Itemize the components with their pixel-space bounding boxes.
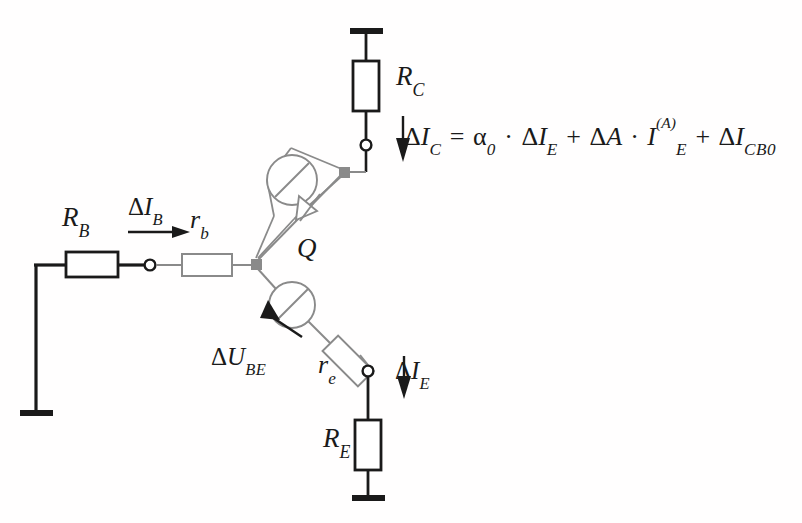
resistor-rb-external <box>66 252 118 277</box>
ground-top-icon <box>350 28 383 34</box>
emitter-wire-upper <box>258 269 276 289</box>
node-base-junction <box>251 259 262 270</box>
ground-bottom-icon <box>352 495 385 501</box>
label-resistor-re-external: RE <box>323 425 351 457</box>
label-delta-ie: ΔIE <box>395 358 430 389</box>
current-source-icon <box>267 155 317 205</box>
terminal-collector-icon <box>361 140 372 151</box>
label-resistor-rc: RC <box>396 63 425 95</box>
label-transistor-q: Q <box>297 235 317 262</box>
label-delta-ube: ΔUBE <box>211 344 266 375</box>
resistor-rc <box>353 61 379 111</box>
label-delta-ib: ΔIB <box>128 194 163 225</box>
label-resistor-rb-external: RB <box>62 204 90 236</box>
resistor-re-external <box>355 420 381 470</box>
terminal-base-icon <box>145 260 156 271</box>
ground-left-icon <box>20 410 53 416</box>
resistor-rb-internal <box>182 254 232 276</box>
collector-current-equation: ΔIC = α0 · ΔIE + ΔA · I(A)E + ΔICB0 <box>404 122 776 154</box>
emitter-wire-mid <box>308 321 330 343</box>
circuit-diagram-page: RB rb ΔIB RC Q ΔUBE re RE ΔIE ΔIC = α0 ·… <box>0 0 802 523</box>
label-resistor-rb-internal: rb <box>190 207 209 237</box>
terminal-emitter-icon <box>363 366 374 377</box>
label-resistor-re-internal: re <box>318 352 336 382</box>
